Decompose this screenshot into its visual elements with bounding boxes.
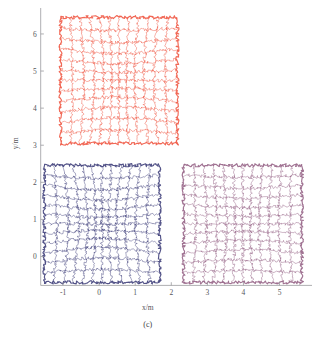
y-tick-label: 3 xyxy=(33,141,37,150)
mesh-gridline xyxy=(91,166,97,284)
mesh-gridline xyxy=(79,18,85,145)
mesh-gridline xyxy=(45,256,160,264)
x-tick-label: 3 xyxy=(205,288,209,297)
mesh-boundary-line xyxy=(45,164,158,167)
mesh-gridline xyxy=(53,164,59,282)
mesh-gridline xyxy=(222,165,228,283)
x-tick-label: 4 xyxy=(242,288,246,297)
x-tick-label: -1 xyxy=(60,288,66,297)
x-tick-label: 5 xyxy=(278,288,282,297)
mesh-gridline xyxy=(241,165,244,282)
y-tick-label: 1 xyxy=(33,215,37,224)
mesh-group-red xyxy=(59,16,179,146)
mesh-gridline xyxy=(182,174,301,179)
mesh-gridline xyxy=(69,19,74,143)
mesh-gridline xyxy=(267,164,273,282)
mesh-gridline xyxy=(81,165,89,282)
mesh-gridline xyxy=(100,167,103,284)
mesh-gridline xyxy=(43,268,160,274)
axis-group xyxy=(41,8,312,285)
mesh-boundary-line xyxy=(184,164,301,167)
mesh-gridline xyxy=(61,68,177,74)
mesh-boundary-line xyxy=(61,142,179,145)
mesh-gridline xyxy=(43,213,160,219)
mesh-gridline xyxy=(164,17,169,143)
x-tick-label: 2 xyxy=(169,288,173,297)
figure-panel: -10123450123456 x/m y/m (c) xyxy=(0,0,320,348)
mesh-boundary-line xyxy=(176,18,179,145)
y-tick-label: 0 xyxy=(33,252,37,261)
mesh-group-blue xyxy=(43,164,161,284)
mesh-gridline xyxy=(61,116,178,124)
y-tick-label: 2 xyxy=(33,178,37,187)
mesh-group-purple xyxy=(182,164,304,284)
x-tick-label: 1 xyxy=(133,288,137,297)
plot-canvas: -10123450123456 x/m y/m (c) xyxy=(0,0,320,348)
y-tick-label: 4 xyxy=(33,104,37,113)
figure-caption: (c) xyxy=(143,320,152,329)
y-axis-label: y/m xyxy=(11,137,20,149)
mesh-gridline xyxy=(153,17,159,143)
mesh-gridline xyxy=(107,164,113,281)
mesh-gridline xyxy=(60,27,178,32)
mesh-gridline xyxy=(44,184,161,191)
y-tick-label: 6 xyxy=(33,30,37,39)
mesh-gridline xyxy=(72,167,80,283)
mesh-gridline xyxy=(183,203,303,209)
y-tick-label: 5 xyxy=(33,67,37,76)
mesh-gridline xyxy=(60,96,177,103)
x-axis-label: x/m xyxy=(142,303,154,312)
mesh-gridline xyxy=(257,167,263,283)
x-tick-label: 0 xyxy=(97,288,101,297)
mesh-gridline xyxy=(45,194,161,202)
mesh-gridline xyxy=(61,37,177,44)
mesh-gridline xyxy=(61,129,178,135)
